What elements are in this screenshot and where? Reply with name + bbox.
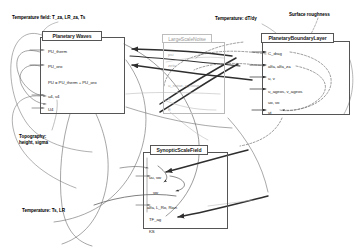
module-title-planetary-boundary-layer[interactable]: PlanetaryBoundaryLayer [261,33,334,43]
field-alfa-alfa-za: alfa, alfa_za [268,64,291,69]
field-psi: psi [168,52,173,57]
field-ks: KS [149,229,155,234]
field-u-ageos-v-ageos: u_ageos, v_ageos [268,89,302,94]
field-e: E [168,107,171,112]
field-uo-vo: uo, vo [268,100,279,105]
field-u4: U4 [48,107,53,112]
field-pu-oro: PU_oro [48,64,62,69]
field-vw: vw [153,190,158,195]
field-q: q [168,96,170,101]
field-zeta: zeta [168,63,176,68]
annotation-surface-roughness: Surface roughness [289,12,330,18]
field-ut: ut [268,110,271,115]
field-tf-ag: TF_ag [149,217,161,222]
module-title-planetary-waves[interactable]: Planetary Waves [42,31,102,41]
field-u-v: u, v [268,76,275,81]
field-uu-vw: uu, vw [149,175,161,180]
module-title-synoptic-scale-field[interactable]: SynopticScaleField [150,145,208,155]
field-pu-sum: PU = PU_therm + PU_oro [48,80,97,85]
annotation-temperature-ts-lr: Temperature: Ts, LR [22,208,65,214]
field-alfa-lro-rian: alfa, L_Ro, Rian [147,205,177,210]
diagram-canvas: Temperature field: T_za, LR_za, Ts Topog… [0,0,356,248]
annotation-topography-line1: Topography: [19,134,46,139]
annotation-topography-line2: height, sigma [19,140,48,145]
field-c-drag: C_drag [268,51,282,56]
field-u-noise-v-noise: u_noise, v_noise [168,83,199,88]
annotation-temperature-dtdy: Temperature: dT/dy [215,16,257,22]
field-pu-therm: PU_therm [48,49,67,54]
field-u4-v4: u4, v4 [48,94,59,99]
annotation-topography: Topography: height, sigma [19,134,48,146]
module-title-large-scale-noise[interactable]: LargeScaleNoise [162,34,212,43]
annotation-temperature-field: Temperature field: T_za, LR_za, Ts [12,15,85,21]
